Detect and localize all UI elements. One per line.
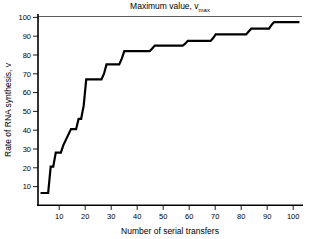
x-axis-title: Number of serial transfers xyxy=(121,226,219,236)
y-axis-tick-labels: 100 90 80 70 60 50 40 30 20 10 xyxy=(18,13,31,191)
chart-figure: Maximum value, vmax 100 90 80 70 60 50 4 xyxy=(0,0,309,239)
y-tick-label: 60 xyxy=(23,88,31,97)
chart-title-main: Maximum value, v xyxy=(130,1,199,11)
x-axis-tick-labels: 10 20 30 40 50 60 70 80 90 100 xyxy=(55,212,299,221)
y-axis-title: Rate of RNA synthesis, v xyxy=(3,62,13,157)
x-tick-label: 30 xyxy=(107,212,115,221)
y-tick-label: 30 xyxy=(23,145,31,154)
x-tick-label: 10 xyxy=(55,212,63,221)
y-tick-label: 40 xyxy=(23,126,31,135)
x-tick-label: 100 xyxy=(287,212,300,221)
x-tick-label: 60 xyxy=(185,212,193,221)
y-tick-label: 20 xyxy=(23,164,31,173)
x-tick-label: 70 xyxy=(211,212,219,221)
y-tick-label: 100 xyxy=(18,13,31,22)
x-tick-label: 40 xyxy=(133,212,141,221)
rna-synthesis-step-chart: Maximum value, vmax 100 90 80 70 60 50 4 xyxy=(0,0,309,239)
y-tick-label: 10 xyxy=(23,182,31,191)
x-tick-label: 90 xyxy=(263,212,271,221)
x-tick-label: 50 xyxy=(159,212,167,221)
chart-title: Maximum value, vmax xyxy=(130,1,210,13)
chart-title-subscript: max xyxy=(199,7,210,13)
x-tick-label: 20 xyxy=(81,212,89,221)
x-tick-label: 80 xyxy=(237,212,245,221)
y-tick-label: 90 xyxy=(23,32,31,41)
y-tick-label: 70 xyxy=(23,70,31,79)
rna-synthesis-curve xyxy=(41,22,300,193)
y-tick-label: 50 xyxy=(23,107,31,116)
y-tick-label: 80 xyxy=(23,51,31,60)
